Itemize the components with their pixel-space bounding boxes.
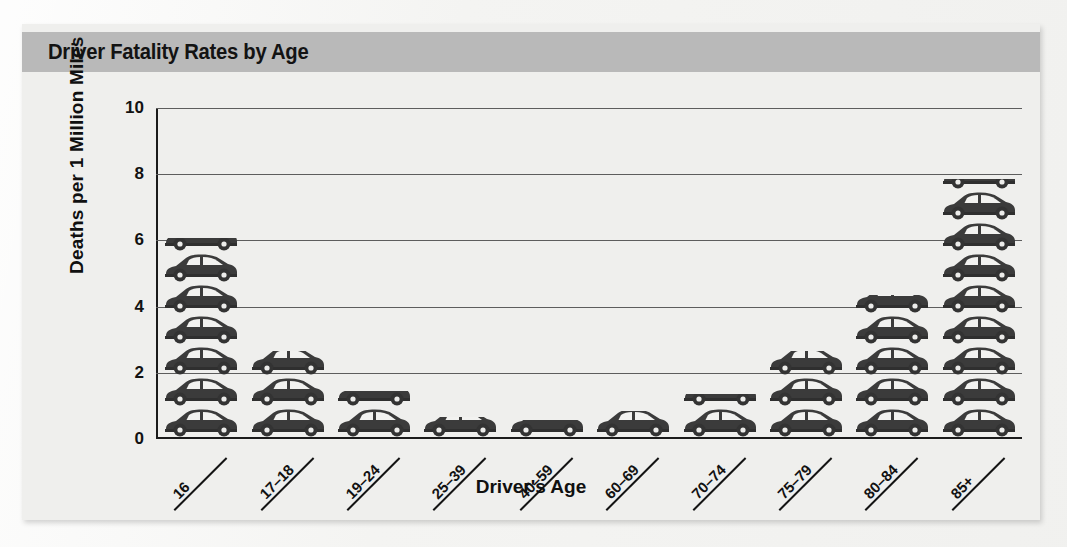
y-tick-label: 10: [125, 98, 144, 118]
car-pictogram-icon: [508, 420, 586, 437]
plot-area: 0246810: [156, 108, 1022, 439]
car-pictogram-icon: [162, 282, 240, 313]
car-pictogram-icon: [421, 417, 499, 437]
y-tick-label: 6: [135, 230, 144, 250]
car-pictogram-icon: [853, 295, 931, 313]
car-pictogram-icon: [162, 375, 240, 406]
bar: [767, 351, 845, 437]
bar: [594, 411, 672, 437]
bar-slot: [158, 108, 244, 437]
car-pictogram-icon: [162, 251, 240, 282]
bar: [940, 179, 1018, 437]
car-pictogram-icon: [767, 375, 845, 406]
y-tick-label: 4: [135, 297, 144, 317]
bar-slot: [590, 108, 676, 437]
bar: [421, 417, 499, 437]
bar-slot: [417, 108, 503, 437]
car-pictogram-icon: [853, 406, 931, 437]
bar: [508, 420, 586, 437]
car-pictogram-icon: [940, 189, 1018, 220]
car-pictogram-icon: [940, 251, 1018, 282]
car-pictogram-icon: [767, 351, 845, 375]
car-pictogram-icon: [681, 406, 759, 437]
bar: [681, 394, 759, 437]
bar-slot: [936, 108, 1022, 437]
car-pictogram-icon: [162, 313, 240, 344]
car-pictogram-icon: [853, 375, 931, 406]
bar-slot: [331, 108, 417, 437]
car-pictogram-icon: [335, 391, 413, 406]
car-pictogram-icon: [940, 344, 1018, 375]
x-axis-line: [156, 437, 1022, 439]
car-pictogram-icon: [249, 406, 327, 437]
bar-series: [158, 108, 1022, 437]
car-pictogram-icon: [162, 344, 240, 375]
bar: [853, 295, 931, 437]
y-tick-label: 2: [135, 363, 144, 383]
car-pictogram-icon: [594, 411, 672, 437]
car-pictogram-icon: [162, 406, 240, 437]
car-pictogram-icon: [940, 179, 1018, 189]
bar-slot: [504, 108, 590, 437]
bar-slot: [676, 108, 762, 437]
car-pictogram-icon: [853, 344, 931, 375]
chart-figure: Driver Fatality Rates by Age Deaths per …: [22, 24, 1040, 520]
car-pictogram-icon: [335, 406, 413, 437]
y-axis-label: Deaths per 1 Million Miles: [66, 37, 88, 274]
bar: [162, 238, 240, 437]
y-tick-label: 0: [135, 429, 144, 449]
car-pictogram-icon: [940, 282, 1018, 313]
car-pictogram-icon: [162, 238, 240, 251]
car-pictogram-icon: [940, 406, 1018, 437]
y-tick-label: 8: [135, 164, 144, 184]
car-pictogram-icon: [940, 220, 1018, 251]
car-pictogram-icon: [853, 313, 931, 344]
bar: [335, 391, 413, 437]
car-pictogram-icon: [767, 406, 845, 437]
car-pictogram-icon: [940, 375, 1018, 406]
car-pictogram-icon: [940, 313, 1018, 344]
bar-slot: [849, 108, 935, 437]
bar-slot: [244, 108, 330, 437]
bar-slot: [763, 108, 849, 437]
bar: [249, 351, 327, 437]
car-pictogram-icon: [249, 375, 327, 406]
x-axis-label: Driver's Age: [22, 476, 1040, 498]
car-pictogram-icon: [681, 394, 759, 406]
car-pictogram-icon: [249, 351, 327, 375]
